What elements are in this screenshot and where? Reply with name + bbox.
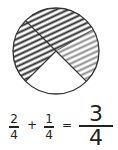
fraction-three-fourths: 3 4 — [79, 104, 113, 148]
fraction-circle — [0, 0, 118, 110]
fraction-equation: 2 4 + 1 4 = 3 4 — [0, 112, 118, 150]
numerator: 2 — [9, 113, 19, 125]
plus-sign: + — [27, 119, 37, 131]
denominator: 4 — [9, 129, 19, 141]
denominator: 4 — [44, 129, 54, 141]
numerator: 3 — [79, 104, 113, 124]
fraction-two-fourths: 2 4 — [9, 113, 19, 141]
fraction-one-fourth: 1 4 — [44, 113, 54, 141]
numerator: 1 — [44, 113, 54, 125]
denominator: 4 — [79, 128, 113, 148]
equals-sign: = — [62, 119, 72, 131]
